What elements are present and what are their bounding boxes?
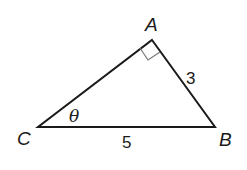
triangle-diagram: A C B 3 5 θ xyxy=(0,0,247,170)
side-label-ab: 3 xyxy=(186,69,195,88)
right-angle-mark xyxy=(140,48,160,60)
vertex-label-a: A xyxy=(144,14,158,35)
vertex-label-c: C xyxy=(17,128,31,149)
vertex-label-b: B xyxy=(219,129,232,150)
angle-label-theta: θ xyxy=(69,106,79,126)
side-label-cb: 5 xyxy=(122,133,131,152)
